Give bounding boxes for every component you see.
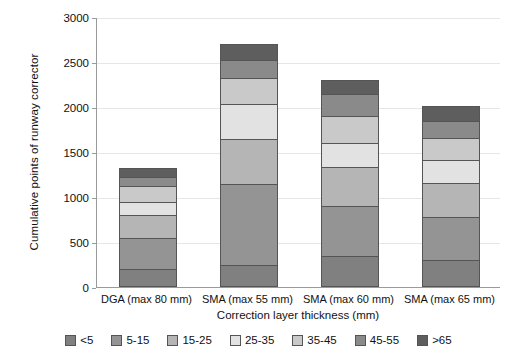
legend-item[interactable]: 35-45 bbox=[292, 334, 336, 346]
legend-item[interactable]: 15-25 bbox=[167, 334, 211, 346]
bar-segment[interactable] bbox=[321, 256, 379, 288]
bar-segment[interactable] bbox=[422, 160, 480, 183]
y-tick-label: 1000 bbox=[43, 192, 89, 204]
bar-segment[interactable] bbox=[321, 94, 379, 117]
y-tick-label: 3000 bbox=[43, 12, 89, 24]
bar-segment[interactable] bbox=[119, 202, 177, 216]
bar-stack[interactable] bbox=[422, 106, 480, 287]
legend-item[interactable]: 45-55 bbox=[355, 334, 399, 346]
legend-swatch-icon bbox=[292, 335, 303, 346]
bar-segment[interactable] bbox=[220, 104, 278, 138]
bar-segment[interactable] bbox=[422, 217, 480, 260]
legend-swatch-icon bbox=[355, 335, 366, 346]
bar-segment[interactable] bbox=[422, 121, 480, 137]
bar-segment[interactable] bbox=[220, 265, 278, 288]
plot-area bbox=[96, 18, 500, 288]
legend-item[interactable]: <5 bbox=[65, 334, 93, 346]
legend-label: 15-25 bbox=[182, 334, 211, 346]
bar-segment[interactable] bbox=[422, 183, 480, 217]
bar-stack[interactable] bbox=[220, 44, 278, 287]
legend-label: <5 bbox=[80, 334, 93, 346]
bar-segment[interactable] bbox=[119, 168, 177, 177]
legend-item[interactable]: 5-15 bbox=[111, 334, 149, 346]
bar-stack[interactable] bbox=[119, 168, 177, 287]
legend-swatch-icon bbox=[417, 335, 428, 346]
legend-item[interactable]: 25-35 bbox=[230, 334, 274, 346]
bar-segment[interactable] bbox=[119, 215, 177, 238]
bar-segment[interactable] bbox=[119, 177, 177, 186]
bar-segment[interactable] bbox=[119, 269, 177, 287]
y-tick-label: 2000 bbox=[43, 102, 89, 114]
bar-segment[interactable] bbox=[321, 116, 379, 143]
y-axis-title: Cumulative points of runway corrector bbox=[28, 22, 40, 282]
legend-label: 45-55 bbox=[370, 334, 399, 346]
bar-segment[interactable] bbox=[119, 238, 177, 270]
legend-swatch-icon bbox=[230, 335, 241, 346]
bar-segment[interactable] bbox=[220, 60, 278, 78]
stacked-bar-chart: Cumulative points of runway corrector 05… bbox=[0, 0, 517, 359]
x-tick-label: DGA (max 80 mm) bbox=[101, 293, 192, 305]
bar-segment[interactable] bbox=[422, 106, 480, 121]
x-axis-title: Correction layer thickness (mm) bbox=[96, 309, 500, 321]
bar-segment[interactable] bbox=[422, 138, 480, 161]
legend-item[interactable]: >65 bbox=[417, 334, 452, 346]
legend-label: 5-15 bbox=[126, 334, 149, 346]
legend-label: >65 bbox=[432, 334, 452, 346]
y-tick-label: 500 bbox=[43, 237, 89, 249]
bars-layer bbox=[97, 18, 500, 287]
y-tick-label: 1500 bbox=[43, 147, 89, 159]
legend-label: 35-45 bbox=[307, 334, 336, 346]
bar-segment[interactable] bbox=[422, 260, 480, 287]
x-tick-label: SMA (max 55 mm) bbox=[202, 293, 293, 305]
x-tick-label: SMA (max 65 mm) bbox=[404, 293, 495, 305]
bar-segment[interactable] bbox=[220, 139, 278, 184]
chart-legend: <55-1515-2525-3535-4545-55>65 bbox=[0, 334, 517, 346]
bar-segment[interactable] bbox=[321, 206, 379, 256]
bar-segment[interactable] bbox=[220, 184, 278, 265]
y-tick-mark bbox=[92, 288, 96, 289]
legend-swatch-icon bbox=[65, 335, 76, 346]
bar-segment[interactable] bbox=[119, 186, 177, 201]
bar-segment[interactable] bbox=[321, 80, 379, 94]
y-tick-label: 2500 bbox=[43, 57, 89, 69]
legend-label: 25-35 bbox=[245, 334, 274, 346]
bar-stack[interactable] bbox=[321, 80, 379, 287]
x-tick-label: SMA (max 60 mm) bbox=[303, 293, 394, 305]
bar-segment[interactable] bbox=[220, 44, 278, 60]
bar-segment[interactable] bbox=[220, 78, 278, 104]
legend-swatch-icon bbox=[167, 335, 178, 346]
legend-swatch-icon bbox=[111, 335, 122, 346]
bar-segment[interactable] bbox=[321, 143, 379, 167]
bar-segment[interactable] bbox=[321, 167, 379, 206]
y-tick-label: 0 bbox=[43, 282, 89, 294]
